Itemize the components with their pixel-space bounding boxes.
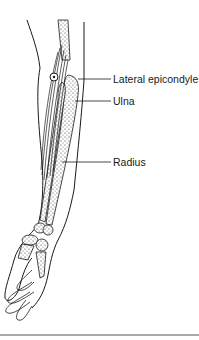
label-lateral-epicondyle: Lateral epicondyle [113, 73, 198, 85]
label-radius: Radius [113, 156, 146, 168]
hand-bones [18, 223, 53, 278]
fingers [6, 270, 34, 320]
label-ulna: Ulna [113, 95, 135, 107]
forearm-illustration [0, 0, 199, 340]
upper-bone [58, 20, 70, 60]
